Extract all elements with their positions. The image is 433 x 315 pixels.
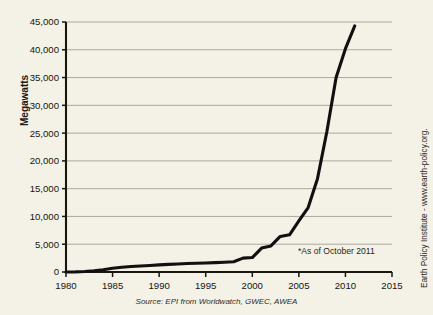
y-tick-label: 20,000 bbox=[30, 155, 59, 166]
data-series-line bbox=[66, 26, 355, 272]
source-text: Source: EPI from Worldwatch, GWEC, AWEA bbox=[0, 297, 433, 306]
y-tick-label: 40,000 bbox=[30, 44, 59, 55]
y-tick-label: 25,000 bbox=[30, 128, 59, 139]
y-tick-label: 45,000 bbox=[30, 16, 59, 27]
x-tick-label: 1995 bbox=[195, 280, 216, 291]
plot-area: 05,00010,00015,00020,00025,00030,00035,0… bbox=[0, 0, 433, 315]
x-tick-label: 2005 bbox=[288, 280, 309, 291]
x-tick-label: 1985 bbox=[102, 280, 123, 291]
y-axis-title: Megawatts bbox=[19, 75, 30, 126]
y-tick-label: 35,000 bbox=[30, 72, 59, 83]
x-tick-label: 2015 bbox=[381, 280, 402, 291]
credit-text: Earth Policy Institute - www.earth-polic… bbox=[420, 128, 429, 288]
y-tick-label: 5,000 bbox=[35, 239, 59, 250]
x-tick-label: 2000 bbox=[242, 280, 263, 291]
y-tick-label: 15,000 bbox=[30, 183, 59, 194]
x-tick-label: 1990 bbox=[148, 280, 169, 291]
x-tick-label: 2010 bbox=[335, 280, 356, 291]
as-of-note: *As of October 2011 bbox=[298, 246, 375, 256]
y-tick-label: 30,000 bbox=[30, 100, 59, 111]
chart-figure: Megawatts 05,00010,00015,00020,00025,000… bbox=[0, 0, 433, 315]
y-tick-label: 10,000 bbox=[30, 211, 59, 222]
x-tick-label: 1980 bbox=[55, 280, 76, 291]
y-tick-label: 0 bbox=[54, 266, 59, 277]
